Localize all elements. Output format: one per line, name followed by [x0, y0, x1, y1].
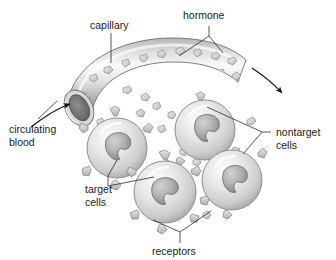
label-nontarget-line1: nontarget [276, 126, 320, 138]
circulating-blood-leader [38, 101, 57, 119]
hormone-target-cell-diagram: capillary hormone circulating blood nont… [0, 0, 336, 260]
outflow-arrow [252, 68, 282, 93]
label-target-line2: cells [85, 196, 106, 208]
label-receptors: receptors [152, 245, 196, 257]
label-hormone: hormone [183, 9, 225, 21]
label-circulating-blood-line2: blood [9, 136, 35, 148]
label-target-line1: target [85, 183, 112, 195]
label-capillary: capillary [90, 19, 129, 31]
label-nontarget-line2: cells [276, 139, 297, 151]
label-circulating-blood-line1: circulating [9, 123, 56, 135]
